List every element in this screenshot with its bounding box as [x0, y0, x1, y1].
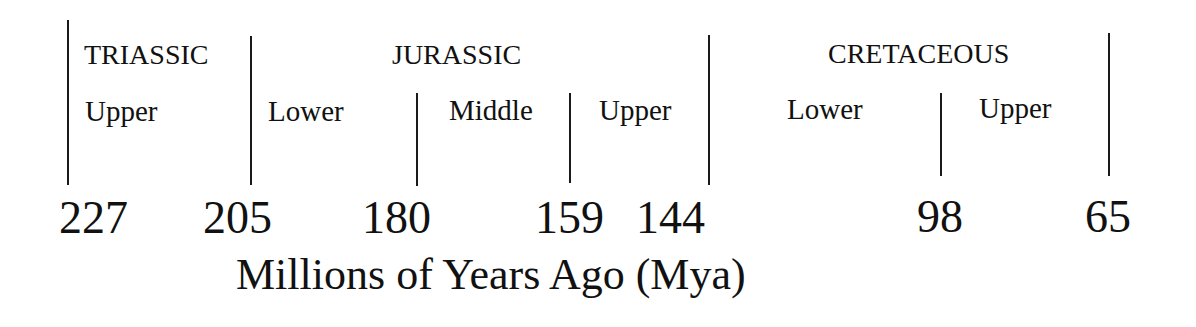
tick-label-65: 65: [1085, 194, 1131, 240]
tick-label-98: 98: [917, 194, 963, 240]
boundary-line-159: [569, 93, 571, 183]
tick-label-205: 205: [203, 195, 272, 241]
boundary-line-65: [1108, 33, 1110, 176]
epoch-label-jurassic-upper: Upper: [599, 96, 671, 125]
boundary-line-180: [416, 93, 418, 186]
epoch-label-jurassic-middle: Middle: [449, 96, 533, 125]
boundary-line-144: [708, 35, 710, 185]
boundary-line-98: [940, 93, 942, 176]
period-label-cretaceous: CRETACEOUS: [828, 40, 1009, 68]
tick-label-227: 227: [59, 195, 128, 241]
boundary-line-227: [67, 20, 69, 185]
epoch-label-triassic-upper: Upper: [85, 97, 157, 126]
period-label-triassic: TRIASSIC: [84, 41, 208, 69]
epoch-label-jurassic-lower: Lower: [268, 97, 344, 126]
period-label-jurassic: JURASSIC: [392, 41, 521, 69]
boundary-line-205: [250, 36, 252, 185]
epoch-label-cretaceous-upper: Upper: [979, 94, 1051, 123]
axis-title: Millions of Years Ago (Mya): [236, 253, 746, 297]
tick-label-144: 144: [636, 195, 705, 241]
tick-label-159: 159: [535, 195, 604, 241]
epoch-label-cretaceous-lower: Lower: [787, 95, 863, 124]
tick-label-180: 180: [362, 195, 431, 241]
